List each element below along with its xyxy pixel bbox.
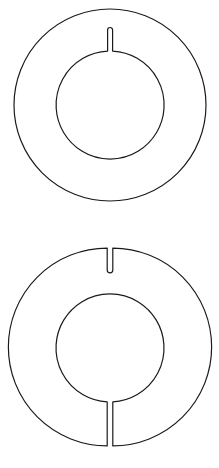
ring-top (14, 9, 206, 201)
ring-bottom (8, 248, 211, 446)
ring-bottom-outer-edge (8, 248, 211, 446)
ring-diagrams (0, 0, 219, 468)
